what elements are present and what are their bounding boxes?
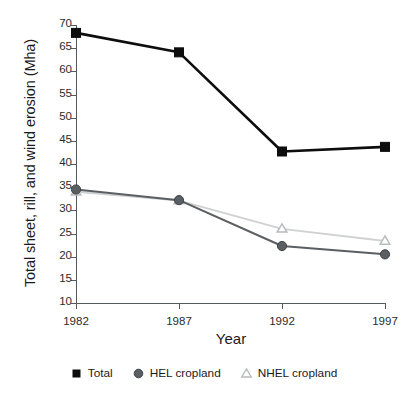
series-layer	[76, 25, 386, 303]
filled-circle-icon	[132, 367, 145, 380]
y-tick-label: 65	[42, 40, 72, 52]
series-nhel-cropland	[71, 187, 390, 244]
series-total	[72, 28, 390, 156]
legend-label: Total	[88, 366, 113, 380]
x-tick-label: 1987	[166, 315, 192, 327]
x-axis-line	[76, 303, 386, 304]
legend-item-nhel-cropland[interactable]: NHEL cropland	[240, 366, 338, 380]
data-point-marker	[278, 147, 287, 156]
y-tick-label: 45	[42, 133, 72, 145]
y-tick-label: 10	[42, 295, 72, 307]
series-line	[76, 189, 385, 254]
x-tick-label: 1982	[63, 315, 89, 327]
data-point-marker	[381, 142, 390, 151]
x-tick-mark	[282, 303, 283, 309]
data-point-marker	[277, 241, 286, 250]
y-tick-label: 25	[42, 226, 72, 238]
y-tick-label: 40	[42, 156, 72, 168]
y-tick-label: 15	[42, 272, 72, 284]
y-tick-label: 35	[42, 179, 72, 191]
y-tick-label: 20	[42, 249, 72, 261]
series-line	[76, 33, 385, 152]
filled-square-icon	[70, 367, 83, 380]
legend-item-hel-cropland[interactable]: HEL cropland	[132, 366, 221, 380]
series-line	[76, 192, 385, 241]
legend-item-total[interactable]: Total	[70, 366, 113, 380]
x-tick-mark	[385, 303, 386, 309]
data-point-marker	[72, 28, 81, 37]
chart-figure: Total sheet, rill, and wind erosion (Mha…	[0, 0, 407, 400]
open-triangle-icon	[240, 367, 253, 380]
legend-label: NHEL cropland	[258, 366, 338, 380]
chart-legend: TotalHEL croplandNHEL cropland	[0, 366, 407, 380]
legend-label: HEL cropland	[150, 366, 221, 380]
y-tick-label: 55	[42, 87, 72, 99]
x-tick-mark	[76, 303, 77, 309]
data-point-marker	[380, 250, 389, 259]
data-point-marker	[174, 196, 183, 205]
plot-area: 70656055504540353025201510 1982198719921…	[76, 25, 386, 303]
x-axis-title: Year	[76, 330, 386, 347]
y-tick-label: 50	[42, 110, 72, 122]
data-point-marker	[71, 185, 80, 194]
x-tick-label: 1997	[372, 315, 398, 327]
y-tick-label: 60	[42, 63, 72, 75]
y-tick-label: 30	[42, 202, 72, 214]
y-tick-label: 70	[42, 17, 72, 29]
data-point-marker	[175, 48, 184, 57]
x-tick-label: 1992	[269, 315, 295, 327]
x-tick-mark	[179, 303, 180, 309]
